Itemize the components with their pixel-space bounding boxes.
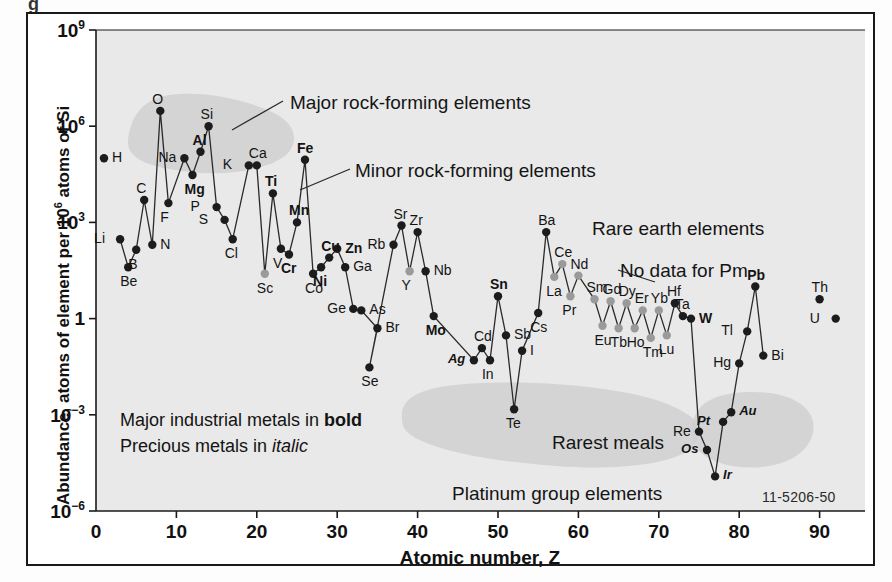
point-label-Li: Li bbox=[94, 231, 105, 245]
point-label-Zr: Zr bbox=[410, 213, 423, 227]
point-label-Ba: Ba bbox=[538, 213, 555, 227]
data-point-Cd bbox=[478, 344, 486, 352]
point-label-Ta: Ta bbox=[675, 297, 690, 311]
data-point-Cr bbox=[285, 250, 293, 258]
data-point-Nd bbox=[574, 271, 582, 279]
data-point-O bbox=[156, 107, 164, 115]
annotation-major-rock-forming: Major rock-forming elements bbox=[290, 92, 531, 114]
point-label-Y: Y bbox=[402, 278, 411, 292]
point-label-Zn: Zn bbox=[345, 241, 362, 255]
point-label-Pr: Pr bbox=[562, 303, 576, 317]
annotation-no-data-pm: No data for Pm bbox=[620, 260, 748, 282]
x-tick-label-7: 70 bbox=[648, 521, 669, 543]
point-label-W: W bbox=[699, 311, 712, 325]
data-point-Ho bbox=[631, 324, 639, 332]
data-point-Pb bbox=[751, 282, 759, 290]
point-label-Ca: Ca bbox=[249, 146, 267, 160]
point-label-As: As bbox=[369, 302, 385, 316]
point-label-Os: Os bbox=[681, 442, 698, 455]
point-label-Cu: Cu bbox=[321, 239, 340, 253]
point-label-Ge: Ge bbox=[327, 301, 346, 315]
data-point-C bbox=[140, 196, 148, 204]
data-point-Cs bbox=[534, 309, 542, 317]
data-point-Sm bbox=[590, 295, 598, 303]
data-point-Ir bbox=[711, 472, 719, 480]
data-point-Ta bbox=[679, 312, 687, 320]
point-label-H: H bbox=[112, 150, 122, 164]
data-point-Sr bbox=[397, 221, 405, 229]
point-label-U: U bbox=[810, 311, 820, 325]
data-point-P bbox=[212, 203, 220, 211]
data-point-Bi bbox=[759, 351, 767, 359]
point-label-Na: Na bbox=[158, 150, 176, 164]
point-label-Er: Er bbox=[635, 291, 649, 305]
point-label-Au: Au bbox=[739, 404, 756, 417]
data-point-Zr bbox=[413, 228, 421, 236]
y-tick-label-0: 109 bbox=[57, 18, 85, 41]
x-tick-label-0: 0 bbox=[91, 521, 102, 543]
point-label-Tl: Tl bbox=[721, 323, 733, 337]
data-point-Re bbox=[695, 427, 703, 435]
figure-container: g HLiBeBCNOFNaMgAlSiPSClKCaScTiVCrMnFeCo… bbox=[0, 0, 892, 582]
point-label-Si: Si bbox=[201, 107, 213, 121]
annotation-rare-earth: Rare earth elements bbox=[592, 218, 764, 240]
point-label-Pt: Pt bbox=[697, 414, 710, 427]
legend-line-italic: Precious metals in italic bbox=[120, 436, 308, 457]
point-label-S: S bbox=[199, 212, 208, 226]
data-point-Au bbox=[727, 408, 735, 416]
point-label-Mg: Mg bbox=[184, 182, 204, 196]
data-point-Lu bbox=[663, 331, 671, 339]
data-point-Pt bbox=[719, 418, 727, 426]
data-point-Pr bbox=[566, 292, 574, 300]
point-label-Dy: Dy bbox=[619, 284, 636, 298]
annotation-platinum-group: Platinum group elements bbox=[452, 483, 662, 505]
point-label-Bi: Bi bbox=[771, 348, 783, 362]
point-label-Pb: Pb bbox=[747, 268, 765, 282]
point-label-N: N bbox=[160, 237, 170, 251]
data-point-As bbox=[357, 306, 365, 314]
data-point-Th bbox=[815, 295, 823, 303]
data-point-Nb bbox=[421, 267, 429, 275]
point-label-F: F bbox=[160, 210, 169, 224]
point-label-Eu: Eu bbox=[595, 333, 612, 347]
y-axis-label: Abundance, atoms of element per 106 atom… bbox=[52, 106, 74, 505]
data-point-B bbox=[132, 246, 140, 254]
point-label-Yb: Yb bbox=[651, 291, 668, 305]
point-label-Nd: Nd bbox=[570, 257, 588, 271]
point-label-In: In bbox=[482, 367, 494, 381]
data-point-Ca bbox=[253, 161, 261, 169]
data-point-N bbox=[148, 241, 156, 249]
point-label-La: La bbox=[546, 284, 562, 298]
data-point-Na bbox=[180, 154, 188, 162]
point-label-O: O bbox=[152, 92, 163, 106]
annotation-rarest-metals: Rarest meals bbox=[552, 432, 664, 454]
data-point-Sb bbox=[502, 331, 510, 339]
data-point-Gd bbox=[606, 297, 614, 305]
point-label-Cd: Cd bbox=[474, 329, 492, 343]
data-point-Mn bbox=[293, 218, 301, 226]
data-point-Dy bbox=[622, 299, 630, 307]
x-tick-label-4: 40 bbox=[407, 521, 428, 543]
point-label-C: C bbox=[136, 181, 146, 195]
data-point-La bbox=[550, 273, 558, 281]
data-point-Cu bbox=[325, 253, 333, 261]
x-tick-label-2: 20 bbox=[246, 521, 267, 543]
data-point-Se bbox=[365, 363, 373, 371]
point-label-Al: Al bbox=[193, 133, 207, 147]
data-point-Fe bbox=[301, 156, 309, 164]
data-point-Mg bbox=[188, 171, 196, 179]
point-label-Rb: Rb bbox=[367, 237, 385, 251]
point-label-Mn: Mn bbox=[289, 203, 309, 217]
data-point-S bbox=[220, 216, 228, 224]
data-point-Er bbox=[639, 306, 647, 314]
data-point-Tb bbox=[614, 324, 622, 332]
point-label-Sr: Sr bbox=[394, 207, 408, 221]
data-point-V bbox=[277, 245, 285, 253]
x-axis-label: Atomic number, Z bbox=[400, 547, 560, 569]
x-tick-label-5: 50 bbox=[487, 521, 508, 543]
data-point-Os bbox=[703, 446, 711, 454]
point-label-Be: Be bbox=[120, 274, 137, 288]
x-tick-label-8: 80 bbox=[729, 521, 750, 543]
x-tick-label-3: 30 bbox=[327, 521, 348, 543]
data-point-Ce bbox=[558, 260, 566, 268]
